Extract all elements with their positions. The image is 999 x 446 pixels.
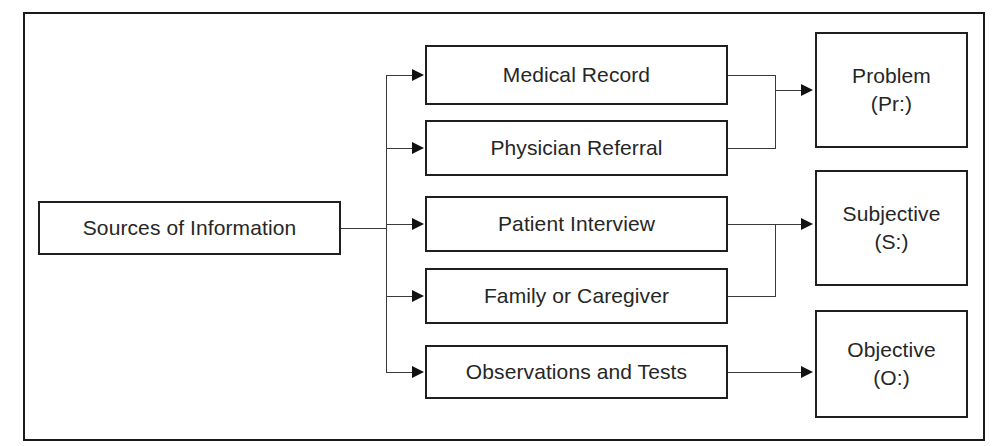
arrowhead-problem (801, 84, 813, 96)
diagram-canvas: Sources of Information Medical Record Ph… (0, 0, 999, 446)
node-label-objective-line2: (O:) (817, 364, 966, 392)
node-problem[interactable]: Problem (Pr:) (815, 32, 968, 148)
node-label-problem-line2: (Pr:) (817, 90, 966, 118)
node-family-or-caregiver[interactable]: Family or Caregiver (425, 268, 728, 324)
node-objective[interactable]: Objective (O:) (815, 310, 968, 418)
connector-branch-patient-interview (386, 224, 414, 225)
connector-merge-riser-problem (775, 75, 776, 148)
node-patient-interview[interactable]: Patient Interview (425, 196, 728, 252)
node-label-patient-interview: Patient Interview (427, 211, 726, 237)
arrowhead-medical-record (412, 69, 424, 81)
connector-branch-observations-and-tests (386, 372, 414, 373)
connector-into-subjective (775, 224, 803, 225)
connector-medical-record-to-problem (728, 75, 776, 76)
arrowhead-observations-and-tests (412, 366, 424, 378)
connector-branch-family-or-caregiver (386, 296, 414, 297)
node-label-observations-and-tests: Observations and Tests (427, 359, 726, 385)
arrowhead-objective (801, 366, 813, 378)
arrowhead-patient-interview (412, 218, 424, 230)
connector-into-problem (775, 90, 803, 91)
node-label-medical-record: Medical Record (427, 62, 726, 88)
node-physician-referral[interactable]: Physician Referral (425, 120, 728, 176)
connector-merge-riser-subjective (775, 224, 776, 296)
node-sources-of-information[interactable]: Sources of Information (38, 201, 341, 255)
node-label-sources-of-information: Sources of Information (40, 215, 339, 241)
node-subjective[interactable]: Subjective (S:) (815, 170, 968, 286)
node-label-objective-line1: Objective (817, 336, 966, 364)
node-label-physician-referral: Physician Referral (427, 135, 726, 161)
connector-physician-referral-to-problem (728, 148, 776, 149)
node-observations-and-tests[interactable]: Observations and Tests (425, 345, 728, 399)
connector-branch-medical-record (386, 75, 414, 76)
node-label-family-or-caregiver: Family or Caregiver (427, 283, 726, 309)
node-label-subjective-line1: Subjective (817, 200, 966, 228)
connector-observations-and-tests-to-objective (728, 372, 803, 373)
node-medical-record[interactable]: Medical Record (425, 45, 728, 105)
arrowhead-subjective (801, 218, 813, 230)
connector-family-or-caregiver-to-subjective (728, 296, 776, 297)
connector-branch-physician-referral (386, 148, 414, 149)
arrowhead-physician-referral (412, 142, 424, 154)
arrowhead-family-or-caregiver (412, 290, 424, 302)
connector-patient-interview-to-subjective (728, 224, 776, 225)
node-label-subjective-line2: (S:) (817, 228, 966, 256)
node-label-problem-line1: Problem (817, 62, 966, 90)
connector-source-stem (341, 228, 387, 229)
